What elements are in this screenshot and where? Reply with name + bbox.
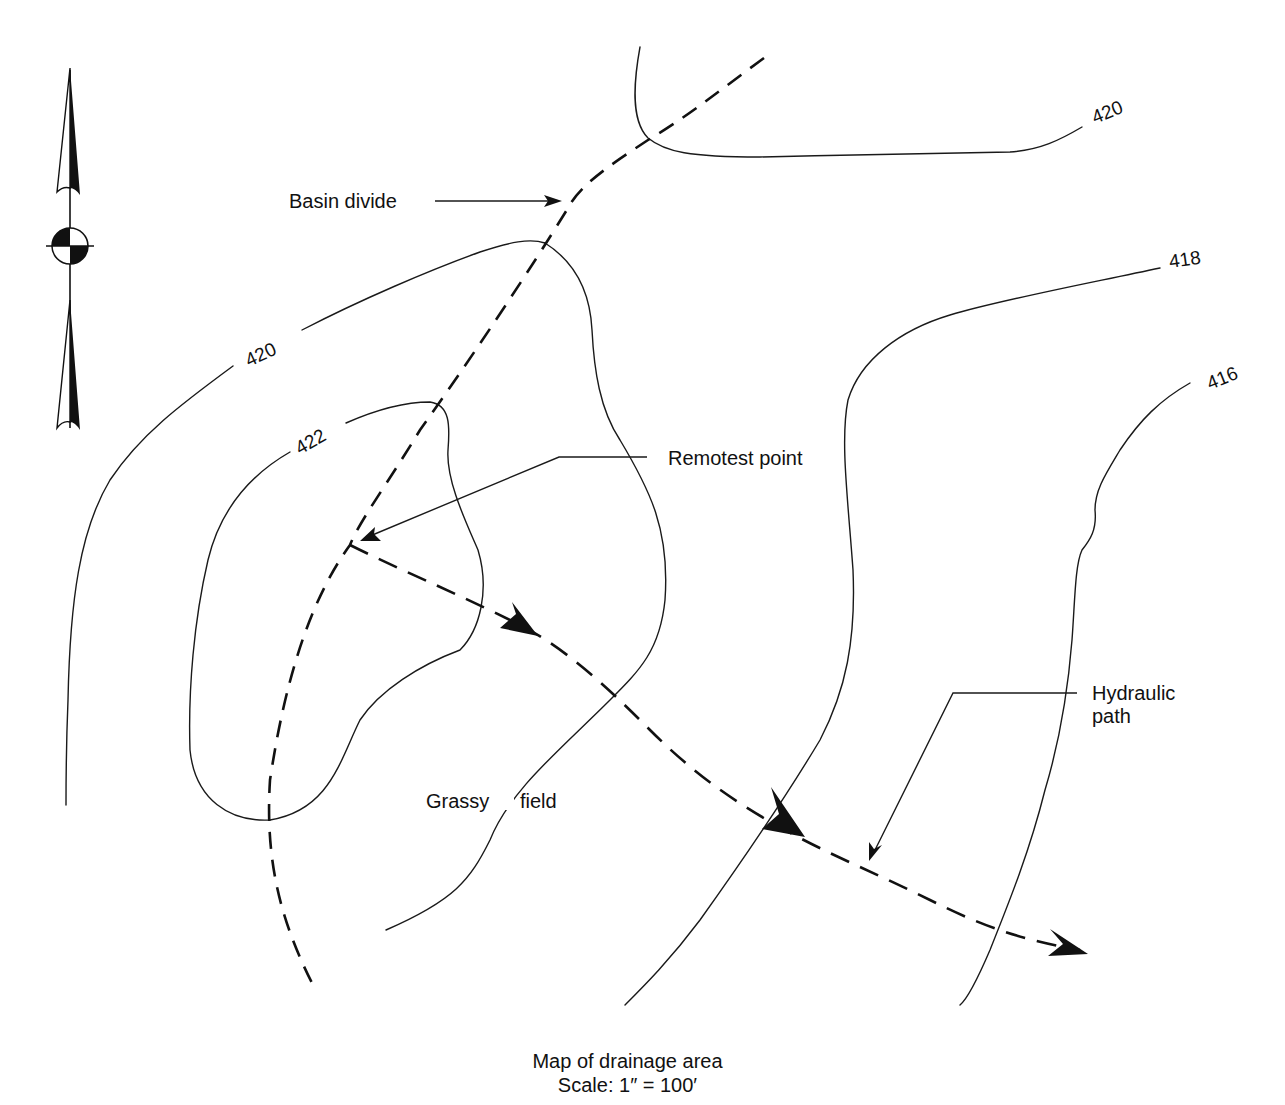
- contour-422: [190, 402, 484, 820]
- basin-divide-callout: Basin divide: [289, 190, 562, 212]
- flow-arrowhead-3: [1048, 929, 1088, 956]
- contour-420-left-upper: [302, 241, 545, 330]
- map-scale: Scale: 1″ = 100′: [0, 1074, 1255, 1097]
- contour-420-upper: [635, 47, 1082, 157]
- field-label: field: [520, 790, 557, 812]
- contour-418: [625, 268, 1160, 1005]
- map-title: Map of drainage area: [0, 1050, 1255, 1073]
- basin-divide-label: Basin divide: [289, 190, 397, 212]
- hydraulic-path-label-line1: Hydraulic: [1092, 682, 1175, 704]
- grassy-field-label: Grassy field: [426, 786, 557, 812]
- hydraulic-path-callout: Hydraulic path: [869, 682, 1175, 861]
- benchmark-icon: [46, 228, 94, 264]
- hydraulic-path-label-line2: path: [1092, 705, 1131, 727]
- remotest-point-label: Remotest point: [668, 447, 803, 469]
- grassy-label: Grassy: [426, 790, 489, 812]
- hydraulic-path-line: [350, 545, 1080, 950]
- north-arrow-icon: [46, 68, 94, 430]
- flow-arrowhead-2: [762, 787, 805, 837]
- contour-label-422: 422: [292, 424, 330, 458]
- contour-label-416: 416: [1204, 362, 1241, 393]
- contour-label-418: 418: [1168, 247, 1202, 272]
- contour-label-420-left: 420: [242, 338, 280, 370]
- drainage-area-map: 420 420 422 418 416 Basin divide Remotes…: [0, 0, 1285, 1105]
- remotest-point-callout: Remotest point: [360, 447, 803, 541]
- contour-label-420-upper: 420: [1089, 96, 1126, 127]
- contour-420-main: [386, 243, 666, 930]
- contour-420-outer-left: [66, 366, 233, 805]
